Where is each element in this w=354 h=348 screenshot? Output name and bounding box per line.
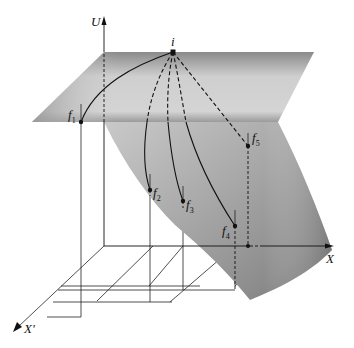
point-f2-label: f2	[153, 186, 161, 203]
point-f4-label: f4	[222, 224, 230, 241]
point-i-label: i	[171, 35, 175, 48]
point-f2	[148, 188, 152, 192]
f3-sub: 3	[190, 206, 194, 215]
f1-sub: 1	[72, 116, 76, 125]
x-axis-label: X	[326, 252, 334, 265]
point-f5-label: f5	[252, 131, 260, 148]
point-f1-label: f1	[68, 108, 76, 125]
xprime-axis-arrow-icon	[13, 322, 22, 332]
point-f5-floor	[246, 244, 250, 248]
u-axis-arrow-icon	[102, 16, 107, 25]
point-f1	[79, 120, 83, 124]
point-i	[171, 50, 176, 55]
surface-diagram	[0, 0, 354, 348]
point-f3-label: f3	[186, 198, 194, 215]
surface-shade	[104, 122, 332, 300]
u-axis-label: U	[91, 15, 100, 28]
f2-sub: 2	[157, 194, 161, 203]
xprime-axis-label: X'	[24, 322, 35, 335]
f4-sub: 4	[226, 232, 230, 241]
point-f5	[246, 144, 250, 148]
f5-sub: 5	[256, 139, 260, 148]
point-f3	[181, 199, 185, 203]
point-f4	[233, 224, 237, 228]
